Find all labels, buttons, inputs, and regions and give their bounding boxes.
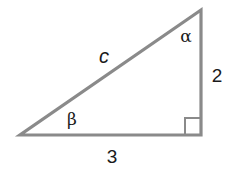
vertical-side-label: 2: [212, 65, 223, 86]
alpha-angle-label: α: [180, 26, 192, 46]
right-angle-marker: [185, 118, 201, 135]
beta-angle-label: β: [67, 109, 77, 129]
horizontal-side-label: 3: [107, 146, 118, 167]
diagram-canvas: c 2 3 α β: [0, 0, 235, 169]
triangle-outline: [20, 10, 201, 135]
hypotenuse-label: c: [99, 45, 109, 67]
triangle-diagram: c 2 3 α β: [0, 0, 235, 169]
